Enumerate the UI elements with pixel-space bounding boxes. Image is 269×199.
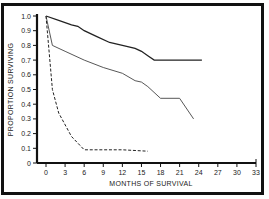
y-tick-label: 0.8 [21, 42, 31, 49]
y-tick-label: 0.4 [21, 101, 31, 108]
x-tick-label: 9 [101, 169, 105, 176]
y-tick-label: 0.6 [21, 71, 31, 78]
y-axis-label: PROPORTION SURVIVING [7, 43, 14, 136]
y-tick-label: 0.3 [21, 115, 31, 122]
x-tick-label: 0 [44, 169, 48, 176]
y-tick-label: 0 [27, 160, 31, 167]
x-tick-label: 27 [214, 169, 222, 176]
x-tick-label: 21 [176, 169, 184, 176]
x-tick-label: 6 [82, 169, 86, 176]
y-tick-label: 0.2 [21, 130, 31, 137]
x-tick-label: 33 [252, 169, 260, 176]
y-tick-label: 0.9 [21, 27, 31, 34]
y-tick-label: 0.7 [21, 57, 31, 64]
y-tick-label: 0.1 [21, 145, 31, 152]
y-tick-label: 0.5 [21, 86, 31, 93]
y-tick-label: 1.0 [21, 13, 31, 20]
series-line-2 [46, 16, 194, 119]
x-tick-label: 15 [138, 169, 146, 176]
survival-chart: 00.10.20.30.40.50.60.70.80.91.0036912151… [0, 0, 269, 199]
x-tick-label: 12 [118, 169, 126, 176]
x-tick-label: 24 [195, 169, 203, 176]
x-tick-label: 30 [233, 169, 241, 176]
x-tick-label: 18 [157, 169, 165, 176]
x-axis-label: MONTHS OF SURVIVAL [109, 180, 192, 187]
x-tick-label: 3 [63, 169, 67, 176]
